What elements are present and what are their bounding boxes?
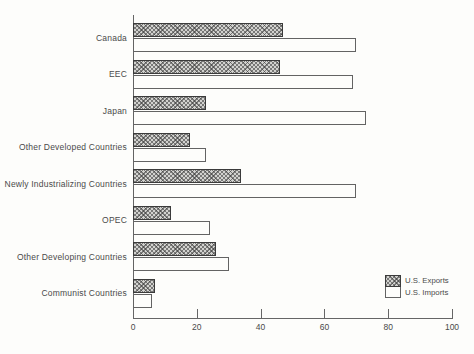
- x-tick-80: [388, 309, 389, 318]
- legend-swatch-imports: [385, 287, 401, 299]
- x-tick-label-0: 0: [118, 322, 148, 332]
- import-bar-canada: [133, 38, 356, 52]
- x-tick-label-60: 60: [309, 322, 339, 332]
- x-tick-label-100: 100: [437, 322, 467, 332]
- legend: U.S. Exports U.S. Imports: [385, 275, 449, 298]
- legend-entry-exports: U.S. Exports: [385, 275, 449, 287]
- export-bar-other-developing-countries: [133, 242, 216, 256]
- import-bar-newly-industrializing-countries: [133, 184, 356, 198]
- legend-swatch-exports: [385, 275, 401, 287]
- category-label-other-developed-countries: Other Developed Countries: [0, 142, 127, 152]
- export-bar-eec: [133, 60, 280, 74]
- category-label-communist-countries: Communist Countries: [0, 288, 127, 298]
- export-bar-japan: [133, 96, 206, 110]
- import-bar-communist-countries: [133, 294, 152, 308]
- import-bar-japan: [133, 111, 366, 125]
- export-bar-other-developed-countries: [133, 133, 190, 147]
- import-bar-opec: [133, 221, 210, 235]
- import-bar-eec: [133, 75, 353, 89]
- export-bar-canada: [133, 23, 283, 37]
- x-tick-20: [197, 309, 198, 318]
- export-bar-communist-countries: [133, 279, 155, 293]
- legend-label-exports: U.S. Exports: [405, 276, 449, 285]
- import-bar-other-developing-countries: [133, 257, 229, 271]
- category-label-eec: EEC: [0, 69, 127, 79]
- export-bar-newly-industrializing-countries: [133, 169, 241, 183]
- category-label-japan: Japan: [0, 106, 127, 116]
- import-bar-other-developed-countries: [133, 148, 206, 162]
- x-axis-line: [133, 318, 453, 319]
- legend-entry-imports: U.S. Imports: [385, 287, 449, 299]
- x-tick-100: [452, 309, 453, 318]
- x-tick-label-40: 40: [246, 322, 276, 332]
- x-tick-60: [324, 309, 325, 318]
- x-tick-40: [261, 309, 262, 318]
- x-tick-label-20: 20: [182, 322, 212, 332]
- bar-chart-figure: CanadaEECJapanOther Developed CountriesN…: [0, 0, 474, 354]
- category-label-other-developing-countries: Other Developing Countries: [0, 252, 127, 262]
- category-label-opec: OPEC: [0, 215, 127, 225]
- category-label-canada: Canada: [0, 33, 127, 43]
- category-label-newly-industrializing-countries: Newly Industrializing Countries: [0, 179, 127, 189]
- export-bar-opec: [133, 206, 171, 220]
- legend-label-imports: U.S. Imports: [405, 288, 448, 297]
- x-tick-label-80: 80: [373, 322, 403, 332]
